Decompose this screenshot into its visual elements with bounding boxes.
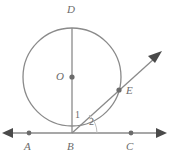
point-label-e: E xyxy=(126,85,133,96)
left-arrowhead-icon xyxy=(2,128,13,138)
point-label-o: O xyxy=(56,71,64,82)
point-label-a: A xyxy=(24,141,31,152)
point-label-b: B xyxy=(67,141,74,152)
right-arrowhead-icon xyxy=(156,128,167,138)
point-dot-e xyxy=(116,87,121,92)
ray-arrowhead-icon xyxy=(148,51,162,63)
ray-segment-be xyxy=(72,58,155,133)
geometry-canvas xyxy=(0,0,169,158)
point-label-c: C xyxy=(126,141,133,152)
point-dot-a xyxy=(27,131,32,136)
angle-label-2: 2 xyxy=(89,117,94,127)
point-dot-c xyxy=(129,131,134,136)
angle-label-1: 1 xyxy=(75,110,80,120)
point-dot-o xyxy=(69,74,74,79)
point-label-d: D xyxy=(67,4,75,15)
geometry-figure: D O E B A C 1 2 xyxy=(0,0,169,158)
